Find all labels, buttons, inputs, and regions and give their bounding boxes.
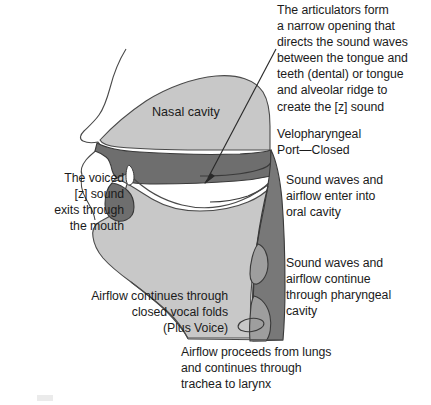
annotation-oral-cavity: Sound waves and airflow enter into oral … [286,172,431,220]
annotation-velopharyngeal-port: Velopharyngeal Port—Closed [277,126,429,158]
page-edge-artifact [37,395,53,401]
annotation-vocal-folds: Airflow continues through closed vocal f… [38,288,228,336]
figure-canvas: Nasal cavity The articulators form a nar… [0,0,431,405]
annotation-voiced-z-sound: The voiced [z] sound exits through the m… [14,170,124,234]
annotation-lungs-trachea: Airflow proceeds from lungs and continue… [181,344,381,392]
annotation-articulators: The articulators form a narrow opening t… [277,2,429,115]
annotation-pharyngeal-cavity: Sound waves and airflow continue through… [286,255,431,319]
nasal-cavity-label: Nasal cavity [152,105,220,119]
